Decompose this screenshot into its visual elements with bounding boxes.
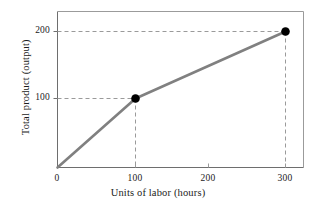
chart-figure: 200 100 0 100 200 300 Units of labor (ho…: [0, 0, 316, 208]
total-product-line: [58, 32, 286, 168]
data-point-100[interactable]: [131, 94, 140, 103]
x-axis-ticks: [136, 164, 286, 168]
x-tick-label-100: 100: [121, 174, 149, 184]
x-tick-label-200: 200: [194, 174, 222, 184]
guide-lines: [58, 32, 286, 168]
x-axis-title: Units of labor (hours): [0, 188, 316, 199]
plot-frame: [58, 12, 304, 168]
y-axis-ticks: [54, 32, 58, 99]
x-tick-label-0: 0: [43, 174, 71, 184]
y-axis-title: Total product (output): [21, 12, 32, 162]
x-tick-label-300: 300: [271, 174, 299, 184]
data-point-300[interactable]: [281, 27, 290, 36]
